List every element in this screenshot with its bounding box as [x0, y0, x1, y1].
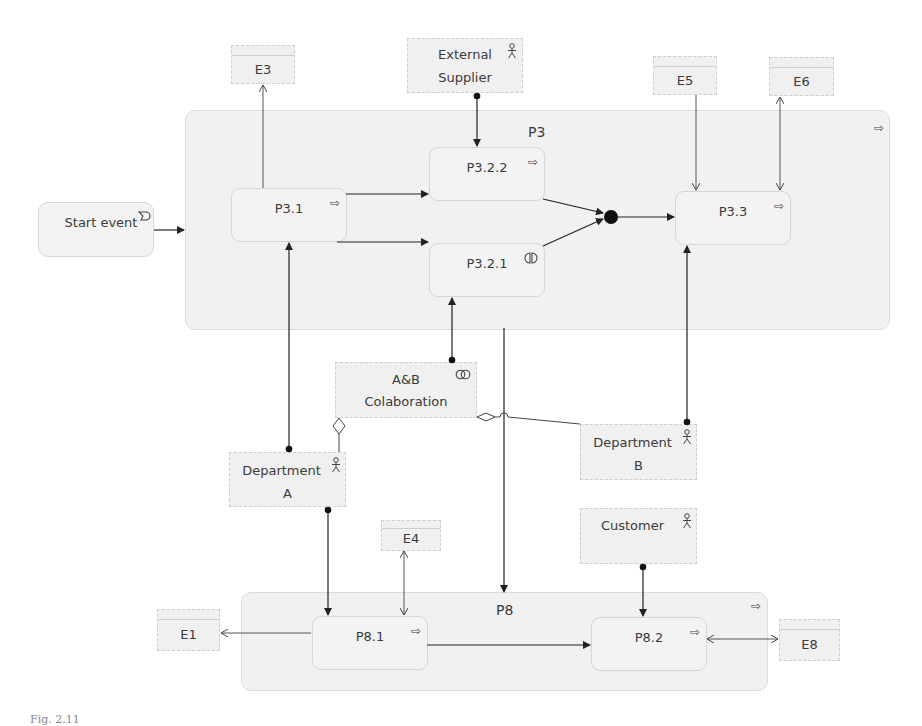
actor-department-b[interactable]: Department B: [580, 424, 697, 480]
actor-icon: [682, 429, 692, 445]
entity-e4-label: E4: [382, 530, 440, 547]
entity-e1[interactable]: E1: [157, 609, 220, 651]
process-p3-2-2-label: P3.2.2: [430, 159, 544, 176]
entity-e6[interactable]: E6: [769, 57, 834, 96]
entity-e3-label: E3: [232, 61, 294, 78]
actor-external-supplier-line2: Supplier: [408, 69, 522, 86]
entity-e6-label: E6: [770, 73, 833, 90]
entity-band: [158, 610, 219, 620]
actor-customer[interactable]: Customer: [580, 508, 697, 564]
container-p3-label: P3: [528, 124, 545, 140]
event-trigger-icon: [138, 211, 152, 221]
process-arrow-icon: ⇨: [330, 197, 340, 209]
aggregation-dept-b: [495, 413, 580, 424]
role-collaboration[interactable]: A&B Colaboration: [335, 362, 477, 418]
department-b-line2: B: [581, 457, 696, 474]
entity-e3[interactable]: E3: [231, 45, 295, 84]
collaboration-line2: Colaboration: [336, 393, 476, 410]
entity-e8[interactable]: E8: [779, 619, 840, 661]
process-arrow-icon: ⇨: [411, 625, 421, 637]
process-arrow-icon: ⇨: [751, 600, 761, 612]
entity-band: [382, 521, 440, 529]
entity-band: [770, 58, 833, 68]
process-p3-2-1[interactable]: P3.2.1: [429, 243, 545, 297]
process-p8-1-label: P8.1: [313, 628, 427, 645]
process-p8-2-label: P8.2: [592, 629, 706, 646]
process-p3-1[interactable]: P3.1 ⇨: [231, 188, 347, 242]
entity-e4[interactable]: E4: [381, 520, 441, 551]
start-event[interactable]: Start event: [38, 202, 154, 257]
actor-external-supplier[interactable]: External Supplier: [407, 38, 523, 93]
container-p8-label: P8: [496, 602, 513, 618]
actor-icon: [682, 513, 692, 529]
aggregation-diamond-b: [477, 413, 495, 421]
actor-icon: [507, 43, 517, 59]
process-p8-2[interactable]: P8.2 ⇨: [591, 617, 707, 671]
actor-external-supplier-line1: External: [408, 46, 522, 63]
process-arrow-icon: ⇨: [690, 626, 700, 638]
actor-icon: [331, 457, 341, 473]
process-arrow-icon: ⇨: [528, 156, 538, 168]
actor-department-a[interactable]: Department A: [229, 452, 346, 507]
entity-e5[interactable]: E5: [653, 56, 717, 95]
department-a-line1: Department: [230, 462, 345, 479]
process-p8-1[interactable]: P8.1 ⇨: [312, 616, 428, 670]
entity-e5-label: E5: [654, 72, 716, 89]
interaction-icon: [524, 252, 538, 264]
aggregation-diamond-a: [333, 418, 345, 434]
entity-band: [232, 46, 294, 56]
entity-e1-label: E1: [158, 626, 219, 643]
process-p3-3-label: P3.3: [676, 203, 790, 220]
process-arrow-icon: ⇨: [874, 122, 884, 134]
entity-band: [654, 57, 716, 67]
department-b-line1: Department: [581, 434, 696, 451]
department-a-line2: A: [230, 485, 345, 502]
process-p3-2-2[interactable]: P3.2.2 ⇨: [429, 147, 545, 201]
collaboration-icon: [455, 369, 471, 380]
figure-caption: Fig. 2.11: [30, 713, 80, 726]
process-p3-3[interactable]: P3.3 ⇨: [675, 191, 791, 245]
process-arrow-icon: ⇨: [774, 200, 784, 212]
entity-e8-label: E8: [780, 636, 839, 653]
process-p3-1-label: P3.1: [232, 200, 346, 217]
entity-band: [780, 620, 839, 630]
customer-label: Customer: [581, 517, 696, 534]
